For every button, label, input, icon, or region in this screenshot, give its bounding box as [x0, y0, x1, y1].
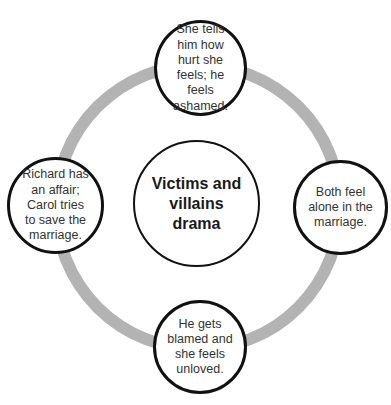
cycle-node-right: Both feel alone in the marriage.	[293, 160, 388, 255]
center-node-label: Victims and villains drama	[152, 174, 242, 234]
cycle-node-top: She tells him how hurt she feels; he fee…	[154, 20, 247, 116]
cycle-node-bottom-label: He gets blamed and she feels unloved.	[167, 317, 232, 378]
cycle-node-right-label: Both feel alone in the marriage.	[308, 185, 373, 231]
cycle-node-left: Richard has an affair; Carol tries to sa…	[7, 157, 104, 254]
cycle-node-bottom: He gets blamed and she feels unloved.	[153, 300, 247, 394]
cycle-node-left-label: Richard has an affair; Carol tries to sa…	[22, 167, 89, 243]
cycle-node-top-label: She tells him how hurt she feels; he fee…	[173, 22, 228, 114]
center-node: Victims and villains drama	[133, 140, 260, 267]
